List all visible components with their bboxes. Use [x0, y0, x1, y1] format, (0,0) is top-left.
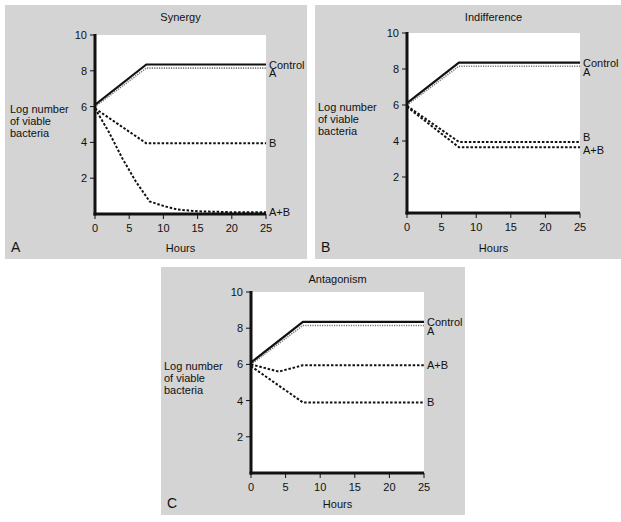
x-tick-label: 5: [126, 222, 132, 234]
x-tick-label: 15: [349, 481, 361, 493]
x-tick-label: 25: [574, 221, 586, 233]
series-label: A: [583, 66, 591, 78]
x-tick-label: 15: [505, 221, 517, 233]
indifference-plot: 2468100510152025ControlABA+B: [315, 5, 621, 259]
y-tick-label: 8: [393, 63, 399, 75]
x-tick-label: 20: [383, 481, 395, 493]
series-label: A+B: [583, 144, 604, 156]
x-tick-label: 25: [418, 481, 430, 493]
x-tick-label: 10: [314, 481, 326, 493]
y-tick-label: 8: [81, 65, 87, 77]
x-tick-label: 0: [92, 222, 98, 234]
plot-area: [251, 292, 424, 473]
series-label: B: [427, 396, 434, 408]
y-tick-label: 2: [237, 431, 243, 443]
indifference-chart-panel: Indifference Log number of viable bacter…: [315, 5, 621, 259]
y-tick-label: 6: [81, 101, 87, 113]
series-label: A: [269, 67, 277, 79]
x-tick-label: 25: [260, 222, 272, 234]
y-tick-label: 4: [393, 135, 399, 147]
y-tick-label: 10: [231, 286, 243, 298]
series-label: B: [269, 137, 276, 149]
antagonism-chart-panel: Antagonism Log number of viable bacteria…: [161, 267, 465, 515]
y-tick-label: 2: [393, 171, 399, 183]
y-tick-label: 10: [75, 29, 87, 41]
x-tick-label: 15: [191, 222, 203, 234]
synergy-plot: 2468100510152025ControlABA+B: [5, 5, 307, 259]
series-label: B: [583, 131, 590, 143]
series-label: A+B: [269, 206, 290, 218]
x-tick-label: 5: [439, 221, 445, 233]
series-label: A+B: [427, 359, 448, 371]
x-tick-label: 5: [283, 481, 289, 493]
x-tick-label: 0: [404, 221, 410, 233]
y-tick-label: 10: [387, 27, 399, 39]
y-tick-label: 4: [237, 395, 243, 407]
antagonism-plot: 2468100510152025ControlAA+BB: [161, 267, 465, 515]
y-tick-label: 6: [393, 99, 399, 111]
x-tick-label: 10: [157, 222, 169, 234]
y-tick-label: 4: [81, 136, 87, 148]
x-tick-label: 20: [539, 221, 551, 233]
x-tick-label: 20: [226, 222, 238, 234]
x-tick-label: 10: [470, 221, 482, 233]
y-tick-label: 2: [81, 172, 87, 184]
x-tick-label: 0: [248, 481, 254, 493]
synergy-chart-panel: Synergy Log number of viable bacteria Ho…: [5, 5, 307, 259]
series-label: A: [427, 325, 435, 337]
y-tick-label: 8: [237, 322, 243, 334]
y-tick-label: 6: [237, 358, 243, 370]
plot-area: [95, 35, 266, 214]
